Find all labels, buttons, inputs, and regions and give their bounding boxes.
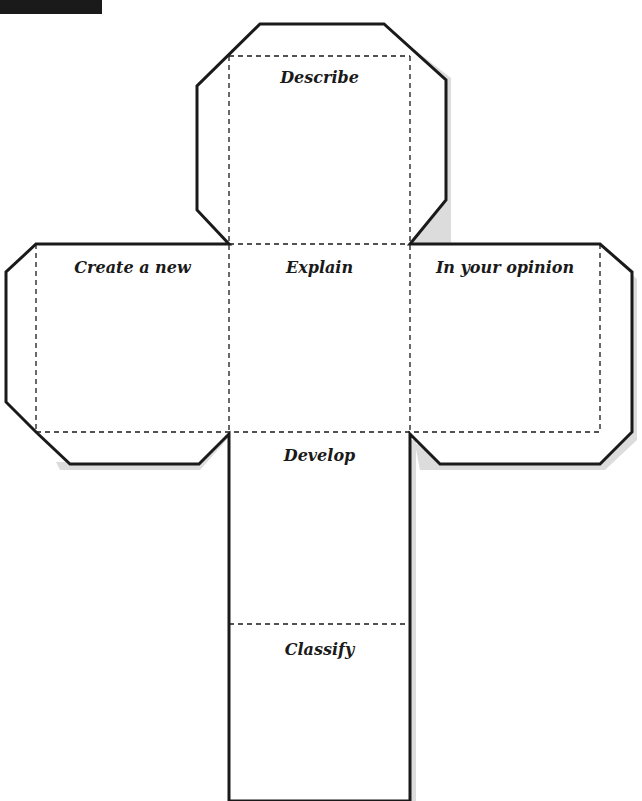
face-label-develop: Develop	[229, 446, 410, 465]
cube-net-drawing	[0, 0, 642, 801]
face-label-describe: Describe	[229, 68, 410, 87]
face-label-explain: Explain	[229, 258, 410, 277]
cube-net-outline	[6, 24, 632, 801]
face-label-create-a-new: Create a new	[36, 258, 229, 277]
face-label-in-your-opinion: In your opinion	[410, 258, 600, 277]
face-label-classify: Classify	[229, 640, 410, 659]
